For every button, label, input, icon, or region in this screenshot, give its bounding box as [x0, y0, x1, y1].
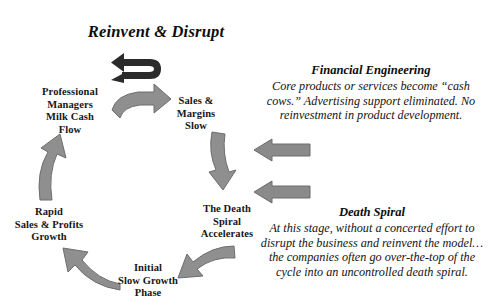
- cycle-node-line: Managers: [26, 99, 114, 112]
- straight-arrow-left-icon: [252, 180, 312, 204]
- cycle-node-line: Margins: [160, 108, 232, 121]
- annotation-heading: Death Spiral: [256, 205, 488, 220]
- cycle-node-line: Spiral: [190, 216, 264, 229]
- curved-arrow-down-icon: [204, 130, 246, 192]
- annotation-financial-engineering: Financial Engineering Core products or s…: [254, 63, 488, 123]
- annotation-body: At this stage, without a concerted effor…: [256, 221, 488, 279]
- cycle-node-rapid-sales-profits-growth: Rapid Sales & Profits Growth: [2, 206, 96, 244]
- u-turn-arrow-left-icon: [108, 50, 170, 84]
- cycle-node-line: Slow: [160, 120, 232, 133]
- cycle-node-line: Phase: [106, 287, 190, 300]
- cycle-node-line: Milk Cash: [26, 111, 114, 124]
- cycle-node-initial-slow-growth-phase: Initial Slow Growth Phase: [106, 262, 190, 300]
- cycle-node-line: Initial: [106, 262, 190, 275]
- diagram-canvas: Reinvent & Disrupt: [0, 0, 490, 305]
- annotation-body: Core products or services become “cash c…: [254, 79, 488, 123]
- cycle-node-line: Rapid: [2, 206, 96, 219]
- annotation-heading: Financial Engineering: [254, 63, 488, 78]
- cycle-node-line: Professional: [26, 86, 114, 99]
- straight-arrow-left-icon: [252, 138, 312, 162]
- page-title: Reinvent & Disrupt: [56, 22, 256, 42]
- curved-arrow-up-icon: [30, 132, 74, 202]
- annotation-death-spiral: Death Spiral At this stage, without a co…: [256, 205, 488, 279]
- cycle-node-line: Accelerates: [190, 228, 264, 241]
- cycle-node-line: Sales & Profits: [2, 219, 96, 232]
- cycle-node-line: Flow: [26, 124, 114, 137]
- cycle-node-death-spiral-accelerates: The Death Spiral Accelerates: [190, 203, 264, 241]
- cycle-node-professional-managers: Professional Managers Milk Cash Flow: [26, 86, 114, 136]
- cycle-node-line: The Death: [190, 203, 264, 216]
- cycle-node-sales-margins-slow: Sales & Margins Slow: [160, 95, 232, 133]
- cycle-node-line: Growth: [2, 231, 96, 244]
- cycle-node-line: Slow Growth: [106, 275, 190, 288]
- cycle-node-line: Sales &: [160, 95, 232, 108]
